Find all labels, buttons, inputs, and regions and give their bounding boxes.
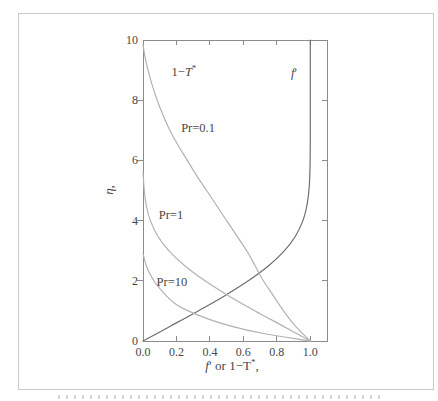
y-tick-label: 6 [132, 153, 138, 167]
x-tick-label: 0.2 [169, 345, 184, 359]
x-tick-label: 0.6 [236, 345, 251, 359]
label-pr-10: Pr=10 [157, 275, 188, 289]
x-tick-label: 0.4 [202, 345, 217, 359]
x-tick-label: 1.0 [303, 345, 318, 359]
x-tick-label: 0.8 [269, 345, 284, 359]
y-axis-label: η, [101, 185, 116, 195]
curve-f-blasius-velocity-profile- [143, 40, 310, 341]
y-tick-label: 8 [132, 93, 138, 107]
label-1-minus-Tstar: 1−T* [172, 63, 197, 79]
caption-fragment-cropped [58, 395, 382, 399]
y-tick-label: 2 [132, 274, 138, 288]
label-pr-1: Pr=1 [159, 208, 183, 222]
label-pr-0.1: Pr=0.1 [181, 121, 215, 135]
label-f-prime: f′ [291, 66, 297, 80]
y-tick-label: 4 [132, 214, 138, 228]
curve-1-t-pr-0.1- [143, 45, 310, 342]
x-axis-label: f′ or 1−T*, [205, 357, 258, 373]
similarity-solution-chart: 0.00.20.40.60.81.002468101−T*f′Pr=0.1Pr=… [0, 0, 438, 401]
plot-frame [143, 40, 327, 341]
y-tick-label: 10 [126, 33, 138, 47]
y-tick-label: 0 [132, 334, 138, 348]
textbook-figure-page: 0.00.20.40.60.81.002468101−T*f′Pr=0.1Pr=… [0, 0, 438, 401]
curve-1-t-pr-1- [143, 172, 310, 341]
